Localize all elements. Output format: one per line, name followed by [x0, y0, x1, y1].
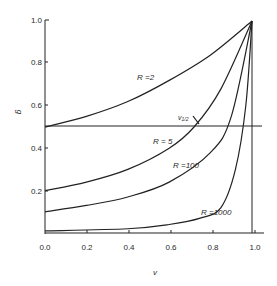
y-tick-label: 0.6 [31, 101, 43, 110]
y-ticks: 1.0 0.8 0.6 0.4 0.2 [31, 16, 49, 196]
series-label-r-5: R = 5 [153, 137, 173, 146]
curve-r-100 [45, 21, 252, 212]
y-tick-label: 1.0 [31, 16, 43, 25]
y-tick-label: 0.2 [31, 187, 43, 196]
x-tick-label: 0.4 [123, 243, 135, 252]
series-label-r-100: R =100 [173, 161, 200, 170]
y-axis-label: g [15, 110, 24, 115]
v-half-label: v1/2 [178, 114, 189, 122]
x-tick-label: 0.0 [39, 243, 51, 252]
chart: 1.0 0.8 0.6 0.4 0.2 0.0 0.2 0.4 0.6 0.8 … [0, 0, 277, 286]
series-label-r-1000: R =1000 [201, 208, 232, 217]
x-tick-label: 0.6 [165, 243, 177, 252]
series-label-r-2: R =2 [137, 73, 155, 82]
y-tick-label: 0.8 [31, 58, 43, 67]
x-tick-label: 0.2 [81, 243, 93, 252]
x-tick-label: 1.0 [249, 243, 261, 252]
x-tick-label: 0.8 [207, 243, 219, 252]
y-tick-label: 0.4 [31, 144, 43, 153]
x-axis-label: v [153, 268, 158, 277]
